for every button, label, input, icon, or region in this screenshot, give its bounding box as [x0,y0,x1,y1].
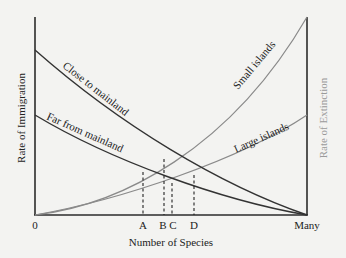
x-start-label: 0 [32,219,38,231]
y-axis-left-title: Rate of Immigration [15,73,27,163]
x-end-label: Many [294,219,320,231]
x-axis-title: Number of Species [129,236,213,248]
small-islands-label: Small islands [230,38,277,91]
far-from-mainland-label: Far from mainland [45,110,126,155]
diagram-canvas: 0 A B C D Many Number of Species Rate of… [0,0,346,258]
island-biogeography-diagram: 0 A B C D Many Number of Species Rate of… [0,0,346,258]
y-axis-right-title: Rate of Extinction [317,77,329,158]
large-islands-label: Large islands [232,120,291,155]
close-to-mainland-label: Close to mainland [61,59,132,118]
tick-b: B [159,219,166,231]
tick-d: D [190,219,198,231]
tick-c: C [169,219,176,231]
tick-a: A [139,219,147,231]
